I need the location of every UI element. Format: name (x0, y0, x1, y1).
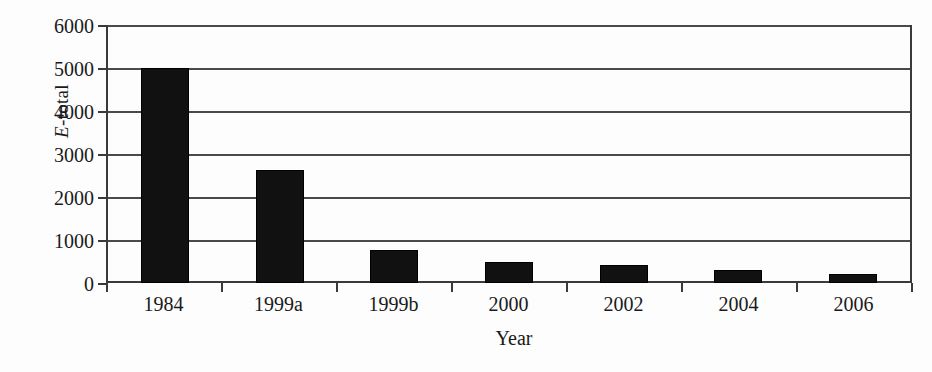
y-tick-label-0: 0 (8, 274, 94, 294)
bar-2000 (485, 262, 533, 283)
bar-2006 (829, 274, 877, 283)
x-tick-mark-3 (451, 283, 453, 292)
y-tick-label-3000: 3000 (8, 145, 94, 165)
x-tick-label-2004: 2004 (681, 294, 796, 314)
x-tick-mark-6 (796, 283, 798, 292)
gridline-3000 (108, 154, 910, 156)
x-axis-title-wrapper: Year (0, 327, 932, 350)
bar-chart-figure: E-total 6000 5000 4000 3000 2000 1000 0 (0, 0, 932, 372)
bar-1984 (141, 68, 189, 283)
x-tick-label-1999b: 1999b (336, 294, 451, 314)
y-tick-label-6000: 6000 (8, 16, 94, 36)
x-tick-mark-2 (336, 283, 338, 292)
y-tick-label-5000: 5000 (8, 59, 94, 79)
x-tick-mark-1 (221, 283, 223, 292)
gridline-6000 (108, 25, 910, 27)
x-tick-label-1984: 1984 (106, 294, 221, 314)
y-tick-label-4000: 4000 (8, 102, 94, 122)
bar-1999a (256, 170, 304, 283)
x-axis-title: Year (496, 327, 533, 350)
gridline-4000 (108, 111, 910, 113)
x-tick-label-2002: 2002 (566, 294, 681, 314)
gridline-5000 (108, 68, 910, 70)
gridline-1000 (108, 240, 910, 242)
x-tick-mark-7 (911, 283, 913, 292)
plot-area (106, 25, 912, 283)
x-tick-label-2006: 2006 (796, 294, 911, 314)
x-tick-label-1999a: 1999a (221, 294, 336, 314)
bar-2004 (714, 270, 762, 283)
gridline-2000 (108, 197, 910, 199)
x-tick-mark-0 (106, 283, 108, 292)
x-tick-label-2000: 2000 (451, 294, 566, 314)
y-axis-title-italic-part: E (51, 126, 72, 138)
bar-1999b (370, 250, 418, 283)
y-tick-label-1000: 1000 (8, 231, 94, 251)
bar-2002 (600, 265, 648, 284)
y-tick-label-2000: 2000 (8, 188, 94, 208)
x-tick-mark-5 (681, 283, 683, 292)
x-tick-mark-4 (566, 283, 568, 292)
